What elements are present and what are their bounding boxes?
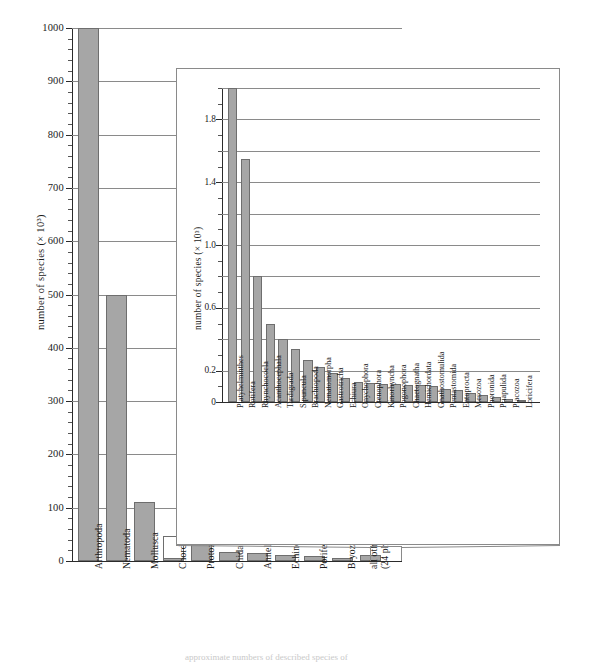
main-y-tick-label: 200 xyxy=(4,448,64,459)
inset-category-label: Ctenophora xyxy=(374,370,383,408)
main-y-minor-tick xyxy=(68,305,72,306)
main-y-minor-tick xyxy=(68,220,72,221)
main-y-minor-tick xyxy=(68,380,72,381)
figure-root: number of species (× 10³) 01002003004005… xyxy=(0,0,595,662)
inset-gridline xyxy=(222,88,540,89)
main-y-minor-tick xyxy=(68,92,72,93)
inset-y-minor-tick xyxy=(218,261,222,262)
main-y-minor-tick xyxy=(68,156,72,157)
main-y-axis-title: number of species (× 10³) xyxy=(35,214,46,330)
inset-y-tick-label: 1.8 xyxy=(174,114,216,124)
main-y-tick-label: 300 xyxy=(4,395,64,406)
inset-category-label: Pentastomida xyxy=(449,364,458,408)
main-y-minor-tick xyxy=(68,476,72,477)
inset-category-label: Phoronida xyxy=(487,374,496,408)
main-y-minor-tick xyxy=(68,444,72,445)
main-category-label: Mollusca xyxy=(149,532,160,569)
inset-category-label: Rhynchocoela xyxy=(261,361,270,408)
inset-category-label: Mesozoa xyxy=(474,378,483,408)
main-y-tick-label: 900 xyxy=(4,75,64,86)
main-y-minor-tick xyxy=(68,337,72,338)
main-y-minor-tick xyxy=(68,124,72,125)
main-y-minor-tick xyxy=(68,518,72,519)
inset-category-label: Kinorhyncha xyxy=(387,365,396,408)
main-y-tick xyxy=(66,561,72,562)
inset-y-minor-tick xyxy=(218,292,222,293)
inset-category-label: Pogonophora xyxy=(399,364,408,408)
inset-y-tick-label: 0 xyxy=(174,397,216,407)
inset-gridline xyxy=(222,151,540,152)
main-y-minor-tick xyxy=(68,529,72,530)
inset-y-minor-tick xyxy=(218,386,222,387)
inset-category-label: Gastrotricha xyxy=(336,367,345,408)
inset-y-tick xyxy=(216,402,222,403)
main-y-tick-label: 800 xyxy=(4,129,64,140)
inset-category-label: Chaetognatha xyxy=(412,363,421,408)
main-y-minor-tick xyxy=(68,71,72,72)
main-y-minor-tick xyxy=(68,422,72,423)
main-y-minor-tick xyxy=(68,252,72,253)
main-y-minor-tick xyxy=(68,263,72,264)
inset-category-label: Loricifera xyxy=(525,375,534,408)
main-y-tick-label: 500 xyxy=(4,289,64,300)
inset-y-minor-tick xyxy=(218,355,222,356)
inset-y-minor-tick xyxy=(218,104,222,105)
inset-category-label: Brachiopoda xyxy=(311,366,320,408)
inset-y-minor-tick xyxy=(218,167,222,168)
inset-y-tick-label: 1.0 xyxy=(174,240,216,250)
main-y-minor-tick xyxy=(68,145,72,146)
main-y-tick-label: 600 xyxy=(4,235,64,246)
inset-gridline xyxy=(222,182,540,183)
inset-gridline xyxy=(222,119,540,120)
main-y-minor-tick xyxy=(68,231,72,232)
main-y-minor-tick xyxy=(68,540,72,541)
inset-category-label: Nematomorpha xyxy=(324,357,333,408)
inset-gridline xyxy=(222,245,540,246)
inset-category-label: Gnathostomulida xyxy=(437,351,446,408)
inset-y-tick-label: 0.6 xyxy=(174,302,216,312)
main-bar xyxy=(78,28,99,561)
main-y-minor-tick xyxy=(68,103,72,104)
main-y-minor-tick xyxy=(68,113,72,114)
inset-category-label: Rotifera xyxy=(248,381,257,408)
inset-y-minor-tick xyxy=(218,198,222,199)
inset-category-label: Sipuncula xyxy=(299,375,308,408)
main-y-tick-label: 1000 xyxy=(4,22,64,33)
inset-category-label: Entoprocta xyxy=(462,372,471,408)
inset-y-tick-label: 0.2 xyxy=(174,365,216,375)
inset-category-label: Platyhelminthes xyxy=(236,355,245,408)
main-y-minor-tick xyxy=(68,358,72,359)
inset-category-label: Echiura xyxy=(349,382,358,408)
main-y-minor-tick xyxy=(68,369,72,370)
main-y-tick-label: 0 xyxy=(4,555,64,566)
inset-category-label: Onychophora xyxy=(361,363,370,408)
main-y-minor-tick xyxy=(68,433,72,434)
figure-caption: approximate numbers of described species… xyxy=(185,652,348,662)
inset-category-label: Placozoa xyxy=(512,378,521,408)
inset-gridline xyxy=(222,276,540,277)
main-category-label: Arthropoda xyxy=(93,523,104,569)
main-y-minor-tick xyxy=(68,326,72,327)
inset-category-label: Priapulida xyxy=(499,374,508,408)
main-y-minor-tick xyxy=(68,284,72,285)
inset-y-minor-tick xyxy=(218,324,222,325)
inset-y-minor-tick xyxy=(218,229,222,230)
main-category-label: Nematoda xyxy=(121,528,132,569)
inset-y-tick-label: 1.4 xyxy=(174,177,216,187)
main-y-minor-tick xyxy=(68,412,72,413)
inset-category-label: Acanthocephala xyxy=(274,355,283,408)
main-y-minor-tick xyxy=(68,60,72,61)
inset-y-minor-tick xyxy=(218,135,222,136)
inset-gridline xyxy=(222,214,540,215)
inset-connector-right xyxy=(402,545,560,548)
main-y-minor-tick xyxy=(68,273,72,274)
main-y-minor-tick xyxy=(68,39,72,40)
main-y-minor-tick xyxy=(68,167,72,168)
main-bar xyxy=(106,295,127,562)
main-y-minor-tick xyxy=(68,316,72,317)
main-y-minor-tick xyxy=(68,49,72,50)
main-y-minor-tick xyxy=(68,209,72,210)
main-y-minor-tick xyxy=(68,497,72,498)
main-y-minor-tick xyxy=(68,177,72,178)
all-others-highlight-box xyxy=(370,546,402,561)
